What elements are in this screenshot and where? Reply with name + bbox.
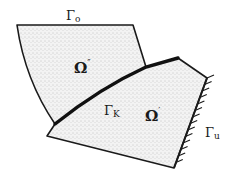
- domain-diagram: Γo Ω″ ΓK Ω′ Γu: [0, 0, 230, 179]
- label-omega-prime: Ω′: [145, 106, 160, 125]
- label-gamma-u: Γu: [205, 125, 220, 141]
- label-gamma-o: Γo: [66, 8, 80, 24]
